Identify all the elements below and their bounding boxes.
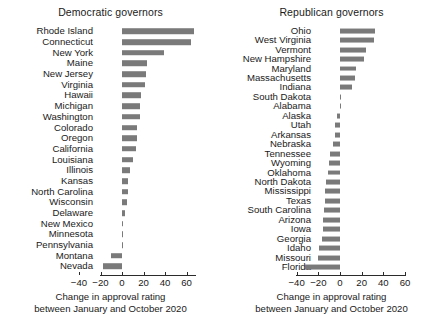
x-axis-label-democratic: Change in approval rating between Januar… — [0, 291, 221, 314]
plot-area-republican: OhioWest VirginiaVermontNew HampshireMar… — [221, 26, 442, 272]
bar-label: New Jersey — [43, 69, 93, 79]
bar-row-republican-arizona: Arizona — [221, 215, 442, 224]
bar — [318, 255, 340, 260]
bar-row-democratic-connecticut: Connecticut — [0, 37, 221, 48]
bar-row-democratic-wisconsin: Wisconsin — [0, 197, 221, 208]
bar-row-democratic-north-carolina: North Carolina — [0, 186, 221, 197]
x-axis-label-line2: between January and October 2020 — [0, 303, 221, 315]
bar — [122, 232, 123, 238]
bar-label: Pennsylvania — [36, 240, 93, 250]
bar — [340, 66, 356, 71]
bar — [335, 123, 340, 128]
bar-label: Colorado — [54, 123, 93, 133]
bar — [122, 178, 128, 184]
bar-row-republican-missouri: Missouri — [221, 253, 442, 262]
bar-label: Hawaii — [64, 90, 93, 100]
bar — [122, 210, 125, 216]
bar-row-democratic-california: California — [0, 144, 221, 155]
bar — [333, 142, 340, 147]
bar-label: Connecticut — [42, 37, 93, 47]
bar-rows-democratic: Rhode IslandConnecticutNew YorkMaineNew … — [0, 26, 221, 272]
bar — [122, 157, 133, 163]
x-axis-label-line1: Change in approval rating — [221, 291, 442, 303]
bar — [122, 168, 130, 174]
bar-label: Washington — [43, 112, 93, 122]
bar — [122, 125, 137, 131]
x-tick-label: −20 — [310, 277, 326, 288]
bar-row-democratic-delaware: Delaware — [0, 208, 221, 219]
bar — [329, 161, 340, 166]
bar-label: Kansas — [61, 176, 93, 186]
bar — [122, 200, 127, 206]
x-tick-mark — [187, 272, 188, 276]
x-tick-label: 40 — [160, 277, 171, 288]
bar-label: Rhode Island — [36, 26, 93, 36]
bar — [340, 94, 341, 99]
bar-row-democratic-pennsylvania: Pennsylvania — [0, 240, 221, 251]
x-tick-label: 40 — [378, 277, 389, 288]
bar — [122, 146, 136, 152]
x-axis-label-republican: Change in approval rating between Januar… — [221, 291, 442, 314]
bar — [319, 246, 340, 251]
bar — [323, 217, 340, 222]
bar — [322, 236, 340, 241]
x-tick-mark — [405, 272, 406, 276]
x-tick-mark — [340, 272, 341, 276]
bar-row-democratic-oregon: Oregon — [0, 133, 221, 144]
x-axis-label-line2: between January and October 2020 — [221, 303, 442, 315]
chart-title-republican: Republican governors — [221, 6, 442, 18]
bar-label: North Carolina — [31, 187, 93, 197]
bar — [335, 132, 340, 137]
x-tick-mark — [79, 272, 80, 276]
bar — [122, 61, 147, 67]
plot-area-democratic: Rhode IslandConnecticutNew YorkMaineNew … — [0, 26, 221, 272]
figure-two-panel-bar-charts: Democratic governors Rhode IslandConnect… — [0, 0, 442, 330]
x-tick-mark — [122, 272, 123, 276]
bar-row-democratic-washington: Washington — [0, 112, 221, 123]
bar-label: Maine — [67, 58, 93, 68]
x-tick-mark — [362, 272, 363, 276]
bar — [340, 85, 352, 90]
bar — [340, 76, 355, 81]
bar-row-republican-alabama: Alabama — [221, 102, 442, 111]
bar-label: Virginia — [61, 80, 93, 90]
bar-row-democratic-hawaii: Hawaii — [0, 90, 221, 101]
bar-label: Illinois — [66, 165, 93, 175]
bar-row-democratic-rhode-island: Rhode Island — [0, 26, 221, 37]
x-tick-label: 60 — [400, 277, 411, 288]
bar-label: New York — [52, 48, 93, 58]
bar-row-democratic-illinois: Illinois — [0, 165, 221, 176]
bar-label: Minnesota — [49, 229, 93, 239]
bar — [340, 47, 366, 52]
x-tick-label: −20 — [92, 277, 108, 288]
bar-row-democratic-maine: Maine — [0, 58, 221, 69]
bar — [111, 253, 122, 259]
bar-label: Montana — [56, 251, 93, 261]
x-tick-mark — [383, 272, 384, 276]
panel-republican-governors: Republican governors OhioWest VirginiaVe… — [221, 0, 442, 330]
bar-row-republican-idaho: Idaho — [221, 243, 442, 252]
bar-row-republican-north-dakota: North Dakota — [221, 177, 442, 186]
bar-label: Louisiana — [52, 155, 93, 165]
bar — [340, 38, 374, 43]
bar-row-democratic-montana: Montana — [0, 250, 221, 261]
bar — [340, 28, 375, 33]
x-tick-label: 0 — [337, 277, 342, 288]
bar-label: California — [52, 144, 93, 154]
bar — [337, 113, 340, 118]
x-tick-label: −40 — [289, 277, 305, 288]
bar — [122, 242, 123, 248]
bar-row-republican-tennessee: Tennessee — [221, 149, 442, 158]
bar-row-republican-iowa: Iowa — [221, 225, 442, 234]
chart-title-democratic: Democratic governors — [0, 6, 221, 18]
bar-label: Michigan — [55, 101, 93, 111]
bar-row-republican-mississippi: Mississippi — [221, 187, 442, 196]
bar — [122, 82, 145, 88]
bar-row-republican-south-carolina: South Carolina — [221, 206, 442, 215]
bar-label: Nevada — [60, 261, 93, 271]
bar — [122, 29, 194, 35]
x-axis-label-line1: Change in approval rating — [0, 291, 221, 303]
bar — [103, 264, 122, 270]
x-tick-mark — [318, 272, 319, 276]
bar-row-republican-south-dakota: South Dakota — [221, 92, 442, 101]
